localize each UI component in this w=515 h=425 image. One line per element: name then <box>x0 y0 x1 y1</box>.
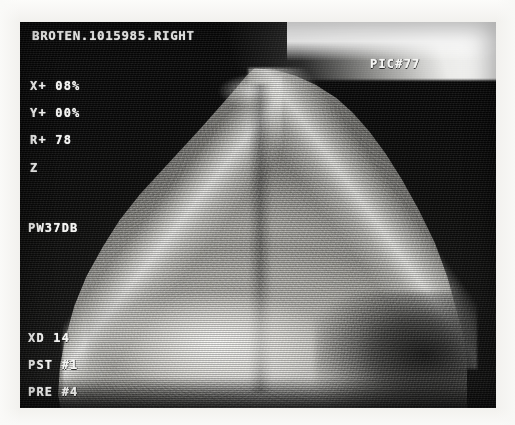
ultrasound-scan-field: BROTEN.1015985.RIGHT PIC#77 X+ 08% Y+ 00… <box>20 22 496 408</box>
speckle-texture <box>20 22 496 408</box>
frame-number-label: PIC#77 <box>370 58 421 70</box>
param-y-offset: Y+ 00% <box>30 107 81 119</box>
param-power-gain: PW37DB <box>28 222 79 234</box>
param-post-process: PST #1 <box>28 359 79 371</box>
param-pre-process: PRE #4 <box>28 386 79 398</box>
scan-header-label: BROTEN.1015985.RIGHT <box>32 30 195 43</box>
param-transducer: XD 14 <box>28 332 70 344</box>
scan-photograph: BROTEN.1015985.RIGHT PIC#77 X+ 08% Y+ 00… <box>0 0 515 425</box>
param-rotation: R+ 78 <box>30 134 72 146</box>
param-x-offset: X+ 08% <box>30 80 81 92</box>
param-zoom-mode: Z <box>30 162 38 174</box>
